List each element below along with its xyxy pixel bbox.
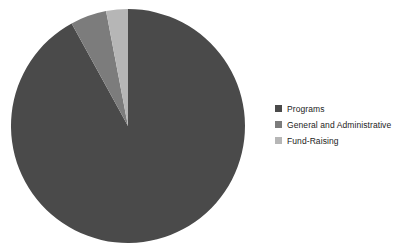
legend-label-fund-raising: Fund-Raising xyxy=(287,136,339,146)
legend-item-general-and-administrative[interactable]: General and Administrative xyxy=(275,117,397,132)
legend-label-general-and-administrative: General and Administrative xyxy=(287,120,391,130)
legend-swatch-programs xyxy=(275,105,282,112)
legend-label-programs: Programs xyxy=(287,104,325,114)
pie-chart-figure: Programs General and Administrative Fund… xyxy=(0,0,398,252)
chart-legend: Programs General and Administrative Fund… xyxy=(275,101,397,149)
legend-item-fund-raising[interactable]: Fund-Raising xyxy=(275,133,397,148)
legend-swatch-general-and-administrative xyxy=(275,121,282,128)
legend-swatch-fund-raising xyxy=(275,137,282,144)
pie-slice-group xyxy=(11,9,245,243)
legend-item-programs[interactable]: Programs xyxy=(275,101,397,116)
